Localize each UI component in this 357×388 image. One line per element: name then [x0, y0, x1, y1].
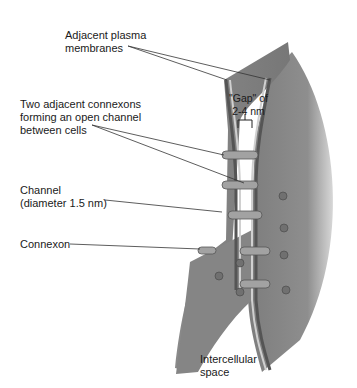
label-intercellular-space: Intercellular space	[200, 353, 257, 379]
label-gap: "Gap" of 2-4 nm	[229, 92, 268, 118]
label-adjacent-plasma-membranes: Adjacent plasma membranes	[65, 29, 146, 55]
label-adjacent-connexons: Two adjacent connexons forming an open c…	[20, 98, 141, 137]
gap-junction-diagram: Adjacent plasma membranes Two adjacent c…	[0, 0, 357, 388]
label-connexon: Connexon	[20, 238, 70, 251]
label-channel: Channel (diameter 1.5 nm)	[20, 184, 107, 210]
